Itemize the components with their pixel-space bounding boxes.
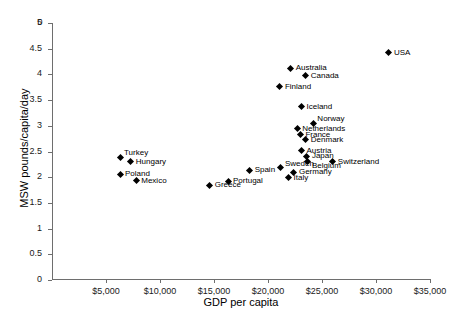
plot-area: 00.511.522.533.544.55 0$5,000$10,000$15,… — [52, 23, 430, 280]
y-tick-label: 1 — [37, 222, 42, 235]
y-tick-mark: 1.5 — [48, 203, 52, 204]
diamond-marker-icon — [285, 174, 292, 181]
y-tick-label: 2 — [37, 170, 42, 183]
data-point-label: Denmark — [311, 135, 343, 144]
diamond-marker-icon — [246, 166, 253, 173]
diamond-marker-icon — [116, 171, 123, 178]
data-point-label: Switzerland — [338, 157, 379, 166]
y-tick-mark: 3.5 — [48, 100, 52, 101]
x-tick-mark — [430, 279, 431, 283]
diamond-marker-icon — [277, 164, 284, 171]
diamond-marker-icon — [385, 49, 392, 56]
x-tick-mark — [214, 279, 215, 283]
y-tick-label: 0.5 — [29, 247, 42, 260]
y-tick-label: 2.5 — [29, 145, 42, 158]
y-tick-mark: 4.5 — [48, 49, 52, 50]
diamond-marker-icon — [302, 72, 309, 79]
data-point-label: Italy — [294, 173, 309, 182]
y-tick-mark: 5 — [48, 23, 52, 24]
data-point-label: Finland — [285, 82, 311, 91]
diamond-marker-icon — [116, 154, 123, 161]
y-tick-mark: 0 — [48, 280, 52, 281]
x-tick-mark — [160, 279, 161, 283]
diamond-marker-icon — [133, 177, 140, 184]
x-tick-label: 0 — [37, 16, 42, 29]
x-axis-line — [52, 279, 430, 280]
y-tick-label: 4.5 — [29, 42, 42, 55]
diamond-marker-icon — [127, 158, 134, 165]
data-point-label: Spain — [255, 165, 275, 174]
diamond-marker-icon — [298, 103, 305, 110]
data-point-label: USA — [394, 48, 410, 57]
scatter-chart-figure: 00.511.522.533.544.55 0$5,000$10,000$15,… — [0, 0, 464, 321]
data-point-label: Greece — [215, 180, 241, 189]
y-axis-line — [52, 23, 53, 280]
y-tick-mark: 4 — [48, 74, 52, 75]
diamond-marker-icon — [298, 147, 305, 154]
y-tick-label: 1.5 — [29, 196, 42, 209]
y-tick-mark: 2 — [48, 177, 52, 178]
y-tick-mark: 3 — [48, 126, 52, 127]
data-point-label: Norway — [317, 114, 344, 123]
y-tick-mark: 2.5 — [48, 152, 52, 153]
x-tick-mark — [322, 279, 323, 283]
diamond-marker-icon — [276, 83, 283, 90]
y-tick-label: 0 — [37, 273, 42, 286]
y-tick-label: 3.5 — [29, 93, 42, 106]
y-tick-label: 3 — [37, 119, 42, 132]
x-tick-mark — [376, 279, 377, 283]
y-tick-mark: 0.5 — [48, 254, 52, 255]
data-point-label: Mexico — [141, 176, 166, 185]
data-point-label: Hungary — [136, 157, 166, 166]
data-point-label: Canada — [311, 71, 339, 80]
diamond-marker-icon — [287, 65, 294, 72]
y-tick-mark: 1 — [48, 229, 52, 230]
x-tick-mark — [106, 279, 107, 283]
data-point-label: Iceland — [306, 102, 332, 111]
x-tick-mark — [268, 279, 269, 283]
y-tick-label: 4 — [37, 67, 42, 80]
y-axis-title: MSW pounds/capita/day — [18, 48, 30, 248]
x-axis-title: GDP per capita — [52, 296, 430, 308]
diamond-marker-icon — [206, 182, 213, 189]
